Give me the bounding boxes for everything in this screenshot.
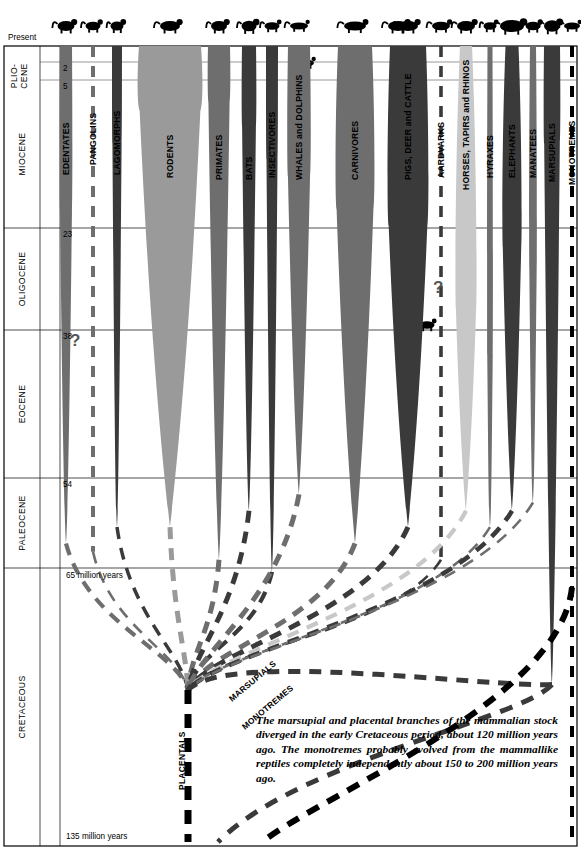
clade-band-carnivores xyxy=(336,46,375,543)
phylogeny-diagram: 25233854 PLIO-CENEMIOCENEOLIGOCENEEOCENE… xyxy=(0,0,581,857)
clade-band-bats xyxy=(242,46,257,511)
epoch-labels: PLIO-CENEMIOCENEOLIGOCENEEOCENEPALEOCENE… xyxy=(9,63,29,738)
clade-band-manatees xyxy=(529,46,537,503)
clade-label-rodents: RODENTS xyxy=(165,135,175,178)
clade-label-primates: PRIMATES xyxy=(214,135,224,180)
clade-label-edentates: EDENTATES xyxy=(61,122,71,175)
epoch-label-oligocene: OLIGOCENE xyxy=(17,252,27,307)
rat-icon xyxy=(154,19,183,34)
uncertainty-marker-edentates: ? xyxy=(70,331,80,350)
rabbit-icon xyxy=(107,19,127,33)
sloth-icon xyxy=(52,19,77,34)
clade-label-pigs-deer-and-cattle: PIGS, DEER and CATTLE xyxy=(403,73,413,180)
clade-label-manatees: MANATEES xyxy=(528,129,538,178)
lineage-connector-lagomorphs xyxy=(117,527,188,690)
zebra-icon xyxy=(452,19,478,34)
clade-label-elephants: ELEPHANTS xyxy=(507,124,517,178)
lineage-connector-whales-and-dolphins xyxy=(188,494,299,690)
lineage-connector-manatees xyxy=(188,503,533,690)
clade-label-hyraxes: HYRAXES xyxy=(485,135,495,178)
clade-band-primates xyxy=(208,46,231,560)
pangolin-icon xyxy=(81,19,103,32)
epoch-label-miocene: MIOCENE xyxy=(17,133,27,176)
tick-label-5: 5 xyxy=(63,82,68,91)
clade-label-aardvarks: AARDVARKS xyxy=(436,122,446,178)
clade-label-marsupials: MARSUPIALS xyxy=(547,123,557,182)
epoch-label-cretaceous: CRETACEOUS xyxy=(17,675,27,738)
note-65my: 65 million years xyxy=(66,571,123,580)
clade-label-bats: BATS xyxy=(244,156,254,180)
silhouette-row xyxy=(52,18,581,331)
clade-label-monotremes: MONOTREMES xyxy=(567,120,577,185)
clade-label-pangolins: PANGOLINS xyxy=(88,113,98,165)
epoch-label-eocene: EOCENE xyxy=(17,385,27,424)
epoch-label-pliocene: PLIO- xyxy=(9,64,19,88)
clade-label-horses-tapirs-and-rhinos: HORSES, TAPIRS and RHINOS xyxy=(461,60,471,190)
clade-label-whales-and-dolphins: WHALES and DOLPHINS xyxy=(294,74,304,180)
clade-label-lagomorphs: LAGOMORPHS xyxy=(112,110,122,175)
shrew-icon xyxy=(260,20,282,33)
clade-band-elephants xyxy=(502,46,521,511)
note-135my: 135 million years xyxy=(66,832,127,841)
tick-label-23: 23 xyxy=(63,230,73,239)
figure-caption: The marsupial and placental branches of … xyxy=(256,713,558,785)
dolphin-icon xyxy=(285,20,310,32)
bat-icon xyxy=(237,19,260,34)
present-label: Present xyxy=(8,33,37,42)
clade-band-edentates xyxy=(60,46,73,543)
fox-icon xyxy=(337,19,368,33)
branch-label-placentals: PLACENTALS xyxy=(177,731,187,790)
tick-label-2: 2 xyxy=(63,64,68,73)
platypus-icon xyxy=(559,20,581,32)
clade-band-rodents xyxy=(138,46,203,527)
tick-label-54: 54 xyxy=(63,480,73,489)
epoch-label-paleocene: PALEOCENE xyxy=(17,495,27,551)
epoch-label-pliocene: CENE xyxy=(19,63,29,88)
clade-label-insectivores: INSECTIVORES xyxy=(267,112,277,178)
clade-band-hyraxes xyxy=(487,46,493,527)
monkey-icon xyxy=(206,19,230,34)
clade-label-carnivores: CARNIVORES xyxy=(350,121,360,180)
aardvark-icon xyxy=(427,19,453,32)
uncertainty-marker-elephants: ? xyxy=(433,278,443,297)
